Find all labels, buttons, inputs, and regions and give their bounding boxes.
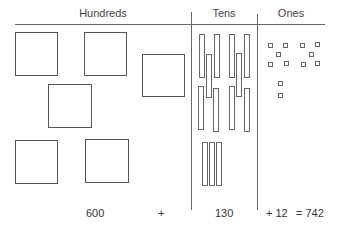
ten-rod	[198, 86, 204, 130]
column-divider-tens-ones	[257, 14, 258, 210]
header-tens: Tens	[191, 7, 257, 19]
one-unit	[301, 62, 306, 67]
one-unit	[315, 61, 320, 66]
ten-rod	[244, 34, 250, 78]
ten-rod	[206, 54, 212, 98]
hundreds-value: 600	[86, 207, 104, 219]
one-unit	[283, 43, 288, 48]
one-unit	[276, 52, 281, 57]
header-ones: Ones	[257, 7, 325, 19]
ten-rod	[209, 142, 215, 186]
header-hundreds: Hundreds	[15, 7, 191, 19]
hundred-square	[48, 84, 92, 128]
one-unit	[268, 43, 273, 48]
one-unit	[309, 52, 314, 57]
ten-rod	[216, 142, 222, 186]
hundred-square	[15, 140, 58, 184]
one-unit	[300, 43, 305, 48]
column-divider-hundreds-tens	[191, 12, 192, 210]
ten-rod	[213, 88, 219, 132]
ten-rod	[229, 86, 235, 130]
ones-part: + 12	[266, 207, 288, 219]
hundred-square	[15, 32, 58, 76]
hundred-square	[85, 139, 129, 183]
ten-rod	[199, 34, 205, 78]
plus-sign: +	[158, 207, 164, 219]
hundred-square	[84, 32, 127, 76]
one-unit	[278, 81, 283, 86]
ten-rod	[202, 142, 208, 186]
one-unit	[278, 93, 283, 98]
ten-rod	[229, 34, 235, 78]
ten-rod	[236, 53, 242, 97]
hundred-square	[142, 54, 185, 97]
one-unit	[268, 62, 273, 67]
ten-rod	[244, 88, 250, 132]
total-result: = 742	[296, 207, 324, 219]
tens-value: 130	[215, 207, 233, 219]
ten-rod	[214, 34, 220, 78]
header-divider	[15, 24, 325, 25]
one-unit	[284, 61, 289, 66]
one-unit	[315, 42, 320, 47]
